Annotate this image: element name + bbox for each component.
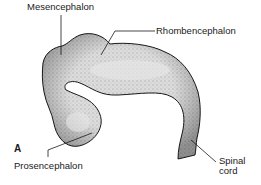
panel-letter: A [14, 143, 21, 154]
label-rhombencephalon: Rhombencephalon [156, 25, 236, 36]
label-cord: cord [219, 165, 237, 176]
embryonic-brain-diagram: Mesencephalon Rhombencephalon Prosenceph… [0, 0, 261, 185]
label-mesencephalon: Mesencephalon [27, 1, 94, 12]
label-prosencephalon: Prosencephalon [14, 160, 83, 171]
